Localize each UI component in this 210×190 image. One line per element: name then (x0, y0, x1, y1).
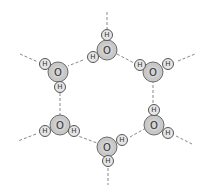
water-molecule-upper-right: OHH (135, 59, 174, 83)
water-molecule-lower-right: OHH (144, 105, 174, 139)
hydrogen-label: H (42, 127, 47, 135)
hydrogen-bond-line (178, 54, 195, 61)
water-molecule-bottom: OHH (97, 135, 128, 167)
hydrogen-bond-line (117, 54, 134, 63)
oxygen-label: O (149, 67, 157, 78)
hydrogen-label: H (90, 53, 95, 61)
hydrogen-label: H (42, 60, 47, 68)
hydrogen-label: H (151, 106, 156, 114)
hydrogen-bond-line (68, 60, 83, 66)
water-molecule-lower-left: OHH (40, 115, 80, 137)
hydrogen-label: H (119, 136, 124, 144)
hydrogen-label: H (165, 60, 170, 68)
hydrogen-label: H (105, 157, 110, 165)
hydrogen-bond-line (20, 54, 38, 62)
hydrogen-label: H (165, 129, 170, 137)
oxygen-label: O (103, 142, 111, 153)
hydrogen-bond-line (176, 136, 192, 144)
water-molecule-upper-left: OHH (40, 59, 69, 93)
oxygen-label: O (150, 120, 158, 131)
hydrogen-label: H (104, 31, 109, 39)
oxygen-label: O (54, 67, 62, 78)
hydrogen-bond-line (130, 128, 146, 137)
oxygen-label: O (103, 45, 111, 56)
hydrogen-bond-line (18, 134, 36, 141)
hydrogen-label: H (57, 83, 62, 91)
hydrogen-label: H (137, 61, 142, 69)
oxygen-label: O (56, 120, 64, 131)
water-molecule-top: OHH (88, 30, 118, 63)
water-hexamer-diagram: OHHOHHOHHOHHOHHOHH (0, 0, 210, 190)
hydrogen-label: H (71, 127, 76, 135)
